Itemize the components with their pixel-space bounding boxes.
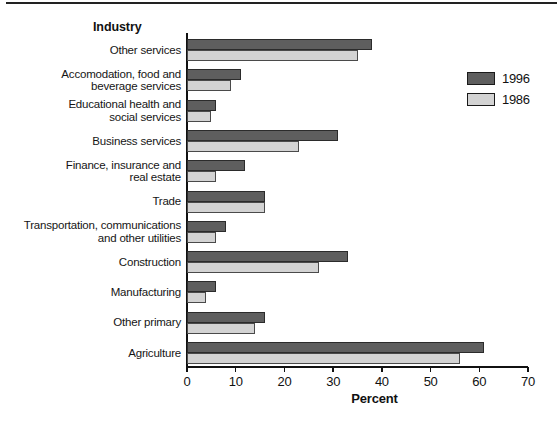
tick-label: 50 — [414, 374, 448, 389]
bar-group — [187, 342, 528, 364]
x-axis-title: Percent — [187, 391, 528, 406]
legend-entry: 1996 — [467, 72, 530, 85]
category-label: Construction — [0, 251, 187, 273]
category-label: Finance, insurance and real estate — [0, 160, 187, 182]
bar-1996 — [187, 69, 241, 80]
legend-entry: 1986 — [467, 93, 530, 106]
category-label: Business services — [0, 130, 187, 152]
tick-label: 0 — [170, 374, 204, 389]
bar-group — [187, 160, 528, 182]
legend-label: 1996 — [502, 71, 530, 86]
bar-group — [187, 281, 528, 303]
bar-1996 — [187, 160, 245, 171]
bar-1996 — [187, 312, 265, 323]
tick-label: 70 — [511, 374, 545, 389]
tick-mark — [479, 367, 481, 372]
category-label: Manufacturing — [0, 281, 187, 303]
bar-1986 — [187, 353, 460, 364]
tick-label: 40 — [365, 374, 399, 389]
bar-1986 — [187, 171, 216, 182]
category-axis-title: Industry — [93, 20, 142, 34]
bar-group — [187, 130, 528, 152]
legend-swatch-1986 — [467, 93, 495, 106]
category-label: Trade — [0, 191, 187, 213]
legend-swatch-1996 — [467, 72, 495, 85]
bar-1996 — [187, 191, 265, 202]
bar-1986 — [187, 292, 206, 303]
tick-mark — [235, 367, 237, 372]
bar-1996 — [187, 281, 216, 292]
bar-1996 — [187, 251, 348, 262]
tick-mark — [332, 367, 334, 372]
bar-1986 — [187, 323, 255, 334]
chart-row: Manufacturing — [0, 281, 528, 303]
chart-row: Educational health and social services — [0, 100, 528, 122]
bar-1996 — [187, 39, 372, 50]
bar-1986 — [187, 202, 265, 213]
tick-label: 20 — [267, 374, 301, 389]
chart-row: Other primary — [0, 312, 528, 334]
category-label: Educational health and social services — [0, 100, 187, 122]
bar-1996 — [187, 100, 216, 111]
legend: 19961986 — [467, 72, 530, 114]
category-label: Other primary — [0, 312, 187, 334]
tick-mark — [381, 367, 383, 372]
tick-label: 30 — [316, 374, 350, 389]
chart-row: Trade — [0, 191, 528, 213]
bar-1986 — [187, 262, 319, 273]
bar-group — [187, 191, 528, 213]
chart-rows: Other servicesAccomodation, food and bev… — [0, 39, 528, 365]
chart-row: Agriculture — [0, 342, 528, 364]
bar-group — [187, 39, 528, 61]
chart-row: Other services — [0, 39, 528, 61]
bar-1986 — [187, 232, 216, 243]
chart-row: Accomodation, food and beverage services — [0, 69, 528, 91]
bar-group — [187, 312, 528, 334]
tick-label: 10 — [219, 374, 253, 389]
tick-mark — [430, 367, 432, 372]
legend-label: 1986 — [502, 92, 530, 107]
bar-1986 — [187, 50, 358, 61]
tick-mark — [186, 367, 188, 372]
bar-1996 — [187, 342, 484, 353]
top-rule — [6, 2, 557, 4]
bar-1986 — [187, 111, 211, 122]
bar-group — [187, 221, 528, 243]
tick-mark — [284, 367, 286, 372]
bar-1996 — [187, 130, 338, 141]
bar-1986 — [187, 80, 231, 91]
chart-row: Construction — [0, 251, 528, 273]
category-label: Agriculture — [0, 342, 187, 364]
tick-mark — [527, 367, 529, 372]
category-label: Accomodation, food and beverage services — [0, 69, 187, 91]
chart-row: Business services — [0, 130, 528, 152]
chart-row: Transportation, communications and other… — [0, 221, 528, 243]
chart-row: Finance, insurance and real estate — [0, 160, 528, 182]
tick-label: 60 — [462, 374, 496, 389]
category-label: Transportation, communications and other… — [0, 221, 187, 243]
bar-1986 — [187, 141, 299, 152]
category-label: Other services — [0, 39, 187, 61]
bar-1996 — [187, 221, 226, 232]
bar-group — [187, 251, 528, 273]
bar-chart-figure: Industry Other servicesAccomodation, foo… — [0, 0, 557, 431]
